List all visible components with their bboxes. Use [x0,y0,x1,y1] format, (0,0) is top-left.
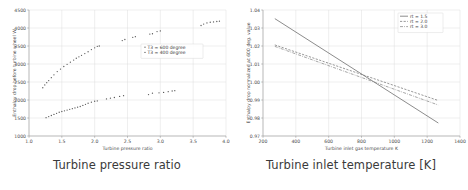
caption-left: Turbine pressure ratio [0,158,234,172]
svg-text:4.0: 4.0 [222,139,229,144]
svg-text:400: 400 [291,139,300,144]
svg-text:1400: 1400 [454,139,466,144]
caption-right: Turbine inlet temperature [K] [234,158,468,172]
two-panel-figure: 1.01.52.02.53.03.54.01000150020002500300… [0,0,468,190]
chart-turbine-inlet-temperature: 2004006008001000120014000.970.980.991.00… [234,0,468,160]
svg-text:2.0: 2.0 [91,139,98,144]
svg-text:rt = 3.0: rt = 3.0 [410,24,428,29]
svg-text:Turbine pressure ratio: Turbine pressure ratio [101,146,152,151]
svg-text:800: 800 [357,139,366,144]
svg-text:1.04: 1.04 [250,8,260,13]
svg-text:3.0: 3.0 [157,139,164,144]
svg-text:0.99: 0.99 [250,98,260,103]
svg-text:1.0: 1.0 [25,139,32,144]
svg-text:0.98: 0.98 [250,116,260,121]
svg-text:3.5: 3.5 [190,139,197,144]
scatter-plot-svg: 1.01.52.02.53.03.54.01000150020002500300… [0,0,234,160]
svg-text:T3 = 400 degree: T3 = 400 degree [147,50,186,55]
svg-text:Enthalpy drop normalized at 60: Enthalpy drop normalized at 600 deg. val… [246,22,251,123]
svg-text:1.01: 1.01 [250,62,260,67]
svg-text:600: 600 [324,139,333,144]
svg-text:4500: 4500 [14,8,26,13]
svg-text:Enthalpy drop before turbine w: Enthalpy drop before turbine wheel W [12,29,17,117]
svg-text:1000: 1000 [14,134,26,139]
svg-text:Turbine inlet gas temperature: Turbine inlet gas temperature K [324,146,399,151]
svg-text:200: 200 [259,139,268,144]
panel-left: 1.01.52.02.53.03.54.01000150020002500300… [0,0,234,190]
svg-text:0.97: 0.97 [250,134,260,139]
chart-turbine-pressure-ratio: 1.01.52.02.53.03.54.01000150020002500300… [0,0,234,160]
panel-right: 2004006008001000120014000.970.980.991.00… [234,0,468,190]
svg-text:1.02: 1.02 [250,44,260,49]
line-plot-svg: 2004006008001000120014000.970.980.991.00… [234,0,468,160]
svg-text:1.03: 1.03 [250,26,260,31]
svg-text:1000: 1000 [388,139,400,144]
svg-text:1200: 1200 [421,139,433,144]
svg-text:1.00: 1.00 [250,80,260,85]
svg-text:2.5: 2.5 [124,139,131,144]
svg-text:1.5: 1.5 [58,139,65,144]
